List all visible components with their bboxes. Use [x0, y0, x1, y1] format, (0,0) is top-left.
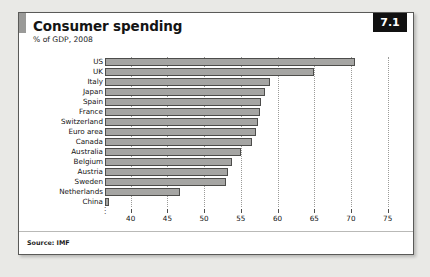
page-title: Consumer spending [33, 18, 182, 34]
category-label: Spain [19, 98, 103, 106]
page-background: Consumer spending % of GDP, 2008 7.1 USU… [0, 0, 430, 277]
axis-tick [351, 209, 352, 213]
axis-tick [241, 209, 242, 213]
category-label: Canada [19, 138, 103, 146]
bar-row [105, 78, 395, 86]
category-label: Switzerland [19, 118, 103, 126]
category-label: US [19, 58, 103, 66]
bar-row [105, 138, 395, 146]
bar-row [105, 188, 395, 196]
category-label: Netherlands [19, 188, 103, 196]
bar-row [105, 128, 395, 136]
bar [105, 168, 228, 176]
plot-area: USUKItalyJapanSpainFranceSwitzerlandEuro… [19, 53, 413, 218]
bar [105, 98, 261, 106]
chart-subtitle: % of GDP, 2008 [33, 35, 93, 44]
category-axis-labels: USUKItalyJapanSpainFranceSwitzerlandEuro… [19, 57, 103, 207]
bar [105, 68, 314, 76]
bar [105, 58, 355, 66]
bar [105, 128, 256, 136]
footer-divider [19, 231, 413, 232]
bar [105, 88, 265, 96]
axis-tick-label: 55 [236, 214, 245, 223]
axis-tick [388, 209, 389, 213]
axis-tick [131, 209, 132, 213]
category-label: Belgium [19, 158, 103, 166]
source-note: Source: IMF [27, 239, 70, 247]
category-label: Japan [19, 88, 103, 96]
category-label: Austria [19, 168, 103, 176]
bar [105, 138, 252, 146]
bar-row [105, 98, 395, 106]
bar [105, 78, 270, 86]
bars-container [105, 57, 395, 207]
axis-tick-label: 40 [126, 214, 135, 223]
bar [105, 148, 241, 156]
axis-tick-label: 75 [383, 214, 392, 223]
figure-number-badge: 7.1 [373, 13, 407, 32]
axis-tick [204, 209, 205, 213]
category-label: Italy [19, 78, 103, 86]
bar-row [105, 148, 395, 156]
bar [105, 198, 109, 206]
bar [105, 178, 226, 186]
bar-row [105, 198, 395, 206]
chart-header: Consumer spending % of GDP, 2008 7.1 [19, 13, 413, 53]
axis-tick [167, 209, 168, 213]
axis-tick-label: 70 [346, 214, 355, 223]
bar-row [105, 178, 395, 186]
axis-tick-label: 60 [273, 214, 282, 223]
category-label: UK [19, 68, 103, 76]
bar-row [105, 108, 395, 116]
category-label: Australia [19, 148, 103, 156]
axis-tick-label: 50 [200, 214, 209, 223]
bar-row [105, 168, 395, 176]
bar-row [105, 88, 395, 96]
axis-tick-label: 45 [163, 214, 172, 223]
bar-row [105, 118, 395, 126]
axis-tick-label: 65 [310, 214, 319, 223]
bar-row [105, 58, 395, 66]
value-axis: 4045505560657075 [105, 209, 395, 231]
bar [105, 158, 232, 166]
category-label: Sweden [19, 178, 103, 186]
bar [105, 118, 258, 126]
axis-tick [278, 209, 279, 213]
bar-row [105, 68, 395, 76]
axis-tick [314, 209, 315, 213]
bar [105, 188, 180, 196]
category-label: Euro area [19, 128, 103, 136]
bar-row [105, 158, 395, 166]
bar [105, 108, 260, 116]
chart-card: Consumer spending % of GDP, 2008 7.1 USU… [18, 12, 414, 255]
category-label: France [19, 108, 103, 116]
category-label: China [19, 198, 103, 206]
title-accent-bar [19, 13, 26, 33]
